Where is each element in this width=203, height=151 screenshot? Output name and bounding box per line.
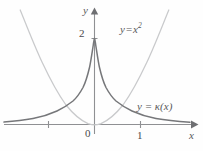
y-axis: [91, 8, 98, 135]
parabola-label: y=x2: [120, 22, 142, 35]
y-axis-arrow-icon: [91, 8, 98, 15]
curvature-figure: y=x2 y = κ(x) x y 0 1 2: [0, 0, 203, 151]
tick-label-one: 1: [137, 130, 143, 141]
x-axis-label: x: [189, 130, 194, 141]
tick-label-two: 2: [79, 28, 85, 39]
x-axis: [4, 121, 199, 129]
parabola-label-exponent: 2: [138, 21, 142, 30]
x-axis-arrow-icon: [191, 121, 199, 129]
parabola-label-equals: =: [125, 23, 133, 35]
plot-canvas: [0, 0, 203, 151]
kappa-label: y = κ(x): [137, 101, 172, 112]
tick-label-zero: 0: [85, 128, 91, 139]
y-axis-label: y: [83, 5, 88, 16]
